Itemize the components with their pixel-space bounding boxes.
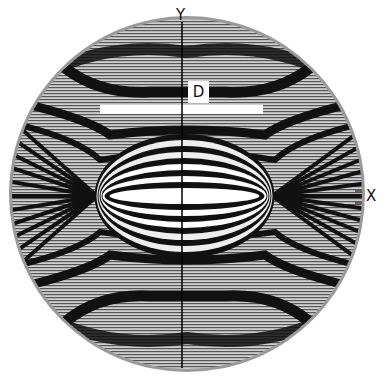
x-axis-label: X bbox=[366, 189, 376, 204]
d-annotation-label: D bbox=[188, 81, 209, 103]
fringe-pattern-figure bbox=[0, 0, 389, 376]
y-axis-label: Y bbox=[176, 8, 185, 23]
central-elliptical-fringes bbox=[95, 134, 275, 258]
